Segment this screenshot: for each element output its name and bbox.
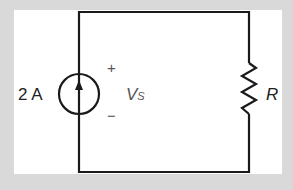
resistor-icon xyxy=(242,63,256,114)
minus-sign: − xyxy=(107,108,116,123)
voltage-label: VS xyxy=(126,86,145,103)
arrow-up-icon xyxy=(75,80,83,90)
resistor-label: R xyxy=(266,86,278,103)
plus-sign: + xyxy=(107,60,116,75)
wire-loop xyxy=(79,12,249,74)
wire-bottom xyxy=(79,114,249,172)
circuit-diagram xyxy=(0,0,293,190)
source-value-label: 2 A xyxy=(18,86,43,103)
